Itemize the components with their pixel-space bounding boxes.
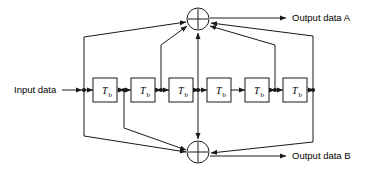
wire-tap0-to-top-adder bbox=[84, 22, 186, 37]
block-diagram: T b T b T b T b T b T b bbox=[0, 0, 376, 172]
junction-dot-tap3 bbox=[196, 88, 200, 92]
wire-tap4-to-top-adder bbox=[210, 26, 275, 45]
delay-block-5: T b bbox=[245, 78, 269, 102]
delay-block-4-subscript: b bbox=[223, 91, 227, 99]
delay-block-2-subscript: b bbox=[147, 91, 151, 99]
output-data-b-label: Output data B bbox=[292, 150, 351, 161]
delay-block-2: T b bbox=[131, 78, 155, 102]
delay-block-1: T b bbox=[93, 78, 117, 102]
input-data-label: Input data bbox=[14, 84, 57, 95]
delay-block-3: T b bbox=[169, 78, 193, 102]
top-adder bbox=[187, 8, 209, 30]
junction-dot-tap0 bbox=[82, 88, 86, 92]
wire-tap5-to-top-adder bbox=[211, 23, 313, 36]
junction-dot-tap1 bbox=[122, 88, 126, 92]
bottom-adder bbox=[187, 141, 209, 163]
diagram-canvas: T b T b T b T b T b T b bbox=[0, 0, 376, 172]
delay-block-1-subscript: b bbox=[109, 91, 113, 99]
delay-block-3-subscript: b bbox=[185, 91, 189, 99]
junction-dot-tap5 bbox=[311, 88, 315, 92]
junction-dot-tap4 bbox=[273, 88, 277, 92]
wire-tap0-to-bottom-adder bbox=[84, 136, 186, 152]
junction-dot-tap2 bbox=[159, 88, 163, 92]
delay-block-6-subscript: b bbox=[299, 91, 303, 99]
output-data-a-label: Output data A bbox=[292, 12, 351, 23]
delay-block-4: T b bbox=[207, 78, 231, 102]
wire-tap2-to-top-adder bbox=[161, 26, 187, 45]
delay-block-6: T b bbox=[283, 78, 307, 102]
delay-block-5-subscript: b bbox=[261, 91, 265, 99]
